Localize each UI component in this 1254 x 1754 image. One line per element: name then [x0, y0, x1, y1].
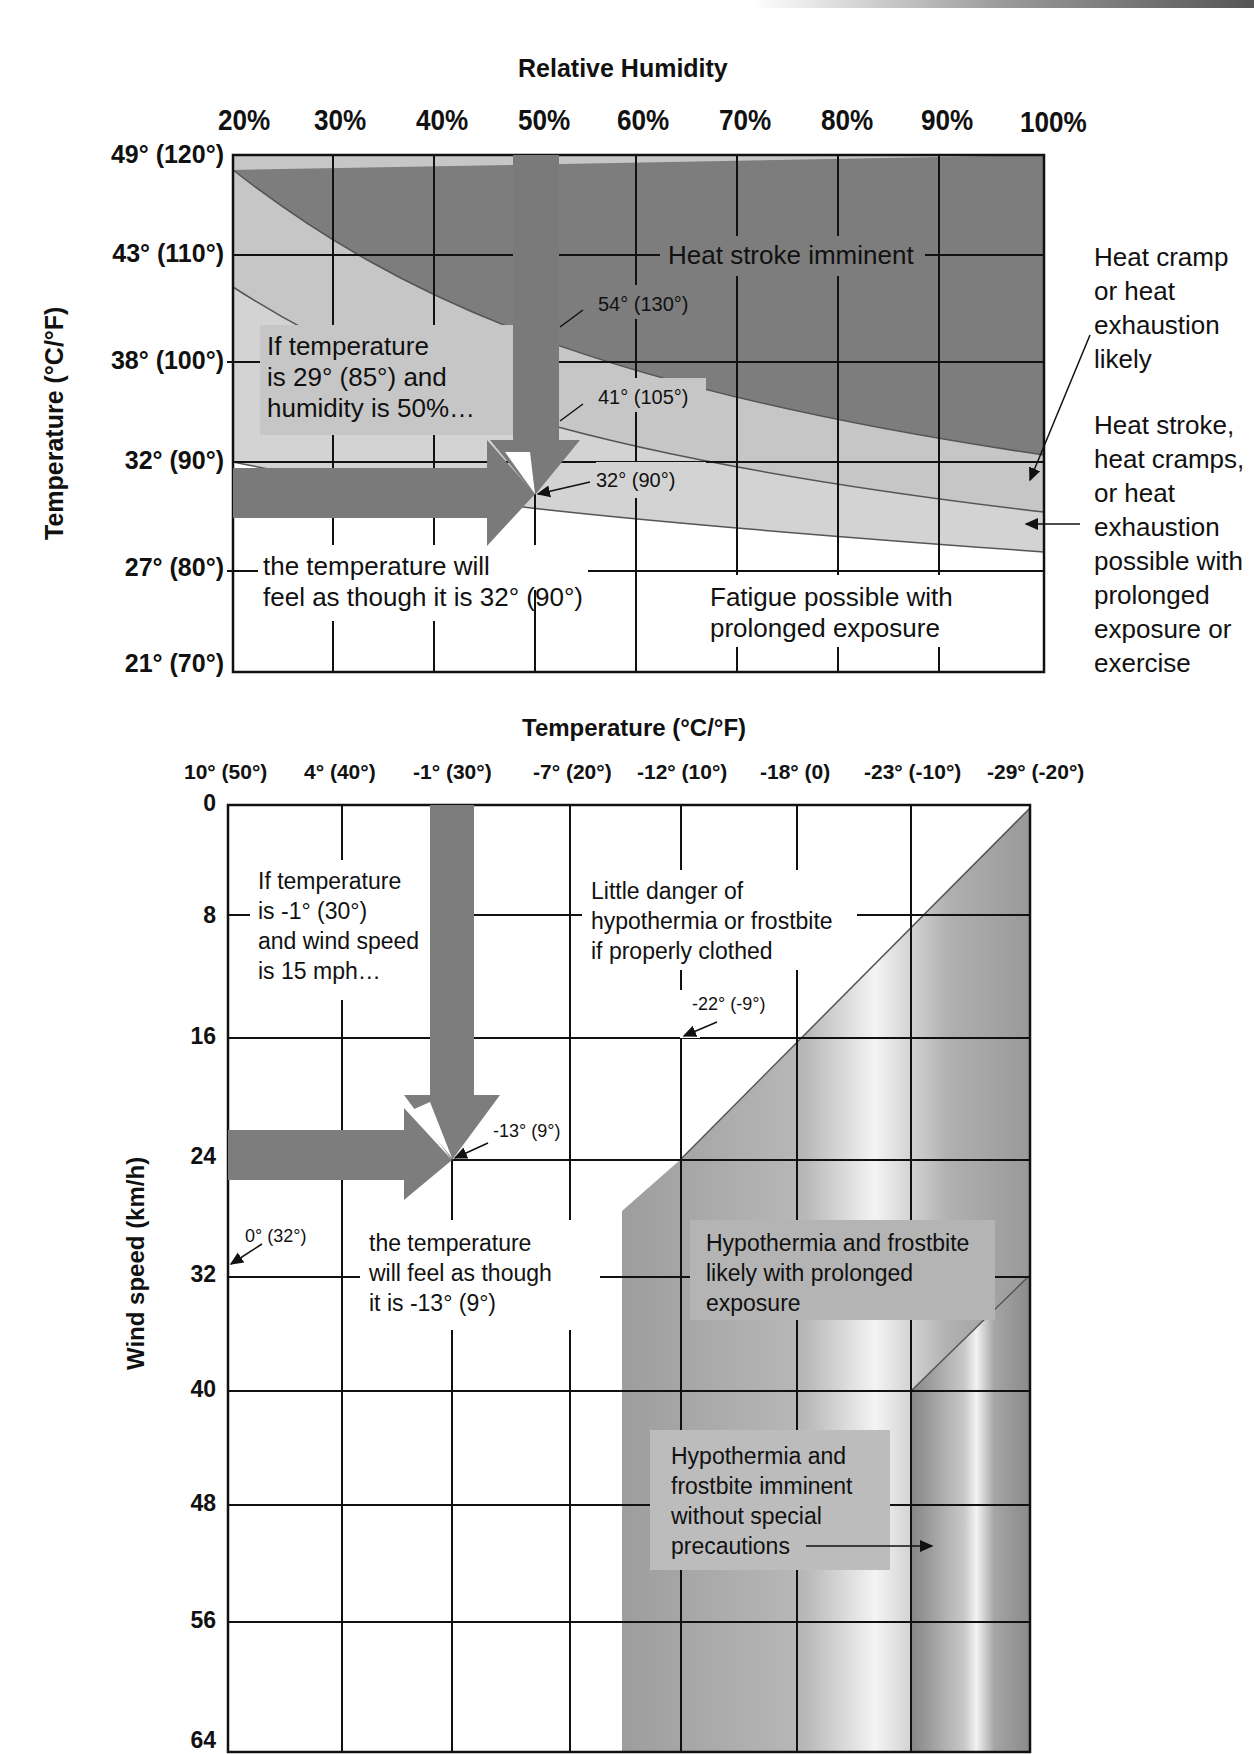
cold-temp-tick-minus7: -7° (20°)	[533, 760, 612, 784]
wind-tick-32: 32	[166, 1261, 216, 1288]
wind-tick-24: 24	[166, 1143, 216, 1170]
cold-temp-tick-minus1: -1° (30°)	[413, 760, 492, 784]
temp-tick-21: 21° (70°)	[24, 649, 224, 678]
side-note-heat-possible: Heat stroke, heat cramps, or heat exhaus…	[1094, 408, 1244, 680]
cold-temp-tick-minus18: -18° (0)	[760, 760, 830, 784]
cold-example-result: the temperature will feel as though it i…	[369, 1228, 552, 1318]
humidity-tick-60: 60%	[617, 104, 669, 137]
zone-label-hypothermia-imminent: Hypothermia and frostbite imminent witho…	[671, 1441, 853, 1561]
wind-tick-56: 56	[166, 1607, 216, 1634]
humidity-tick-40: 40%	[416, 104, 468, 137]
temp-tick-49: 49° (120°)	[24, 140, 224, 169]
zone-label-little-danger: Little danger of hypothermia or frostbit…	[591, 876, 833, 966]
wind-tick-8: 8	[166, 902, 216, 929]
humidity-tick-50: 50%	[518, 104, 570, 137]
cold-example-condition: If temperature is -1° (30°) and wind spe…	[258, 866, 419, 986]
heat-example-condition: If temperature is 29° (85°) and humidity…	[267, 331, 475, 424]
wind-tick-64: 64	[166, 1727, 216, 1754]
curve-label-54: 54° (130°)	[598, 293, 689, 316]
wind-tick-0: 0	[166, 790, 216, 817]
cold-temp-tick-10: 10° (50°)	[184, 760, 267, 784]
label-minus13: -13° (9°)	[493, 1121, 560, 1142]
temp-tick-27: 27° (80°)	[24, 553, 224, 582]
cold-temp-tick-minus23: -23° (-10°)	[864, 760, 961, 784]
heat-chart-title: Relative Humidity	[518, 54, 728, 83]
zone-label-fatigue: Fatigue possible with prolonged exposure	[710, 582, 953, 644]
curve-label-41: 41° (105°)	[598, 386, 689, 409]
cold-temp-tick-minus29: -29° (-20°)	[987, 760, 1084, 784]
cold-temp-tick-minus12: -12° (10°)	[637, 760, 727, 784]
zone-label-heat-stroke: Heat stroke imminent	[668, 240, 914, 271]
humidity-tick-90: 90%	[921, 104, 973, 137]
side-note-heat-cramp: Heat cramp or heat exhaustion likely	[1094, 240, 1228, 376]
temp-tick-43: 43° (110°)	[24, 239, 224, 268]
humidity-tick-80: 80%	[821, 104, 873, 137]
cold-temp-tick-4: 4° (40°)	[304, 760, 376, 784]
heat-y-axis-label: Temperature (°C/°F)	[40, 307, 69, 540]
heat-example-result: the temperature will feel as though it i…	[263, 551, 583, 613]
label-zero: 0° (32°)	[245, 1226, 306, 1247]
zone-label-hypothermia-likely: Hypothermia and frostbite likely with pr…	[706, 1228, 969, 1318]
humidity-tick-100: 100%	[1020, 106, 1087, 139]
humidity-tick-30: 30%	[314, 104, 366, 137]
wind-tick-16: 16	[166, 1023, 216, 1050]
humidity-tick-70: 70%	[719, 104, 771, 137]
label-minus22: -22° (-9°)	[692, 994, 765, 1015]
cold-y-axis-label: Wind speed (km/h)	[122, 1157, 150, 1370]
cold-chart-title: Temperature (°C/°F)	[522, 714, 746, 742]
wind-tick-48: 48	[166, 1490, 216, 1517]
humidity-tick-20: 20%	[218, 104, 270, 137]
wind-tick-40: 40	[166, 1376, 216, 1403]
curve-label-32: 32° (90°)	[596, 469, 675, 492]
